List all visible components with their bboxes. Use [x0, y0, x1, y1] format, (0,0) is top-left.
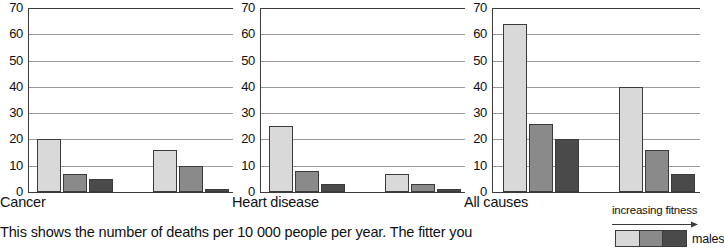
legend-swatches	[615, 230, 687, 247]
y-tick-label: 70	[241, 3, 255, 13]
plot-area-1	[260, 8, 465, 193]
y-tick-label: 40	[241, 82, 255, 92]
y-tick-label: 60	[241, 29, 255, 39]
y-tick-label: 70	[9, 3, 23, 13]
bar	[295, 171, 319, 192]
y-tick-label: 20	[241, 134, 255, 144]
bar	[645, 150, 669, 192]
y-tick-label: 30	[473, 108, 487, 118]
legend-swatch	[616, 231, 639, 246]
y-tick-label: 40	[9, 82, 23, 92]
y-tick-label: 30	[241, 108, 255, 118]
chart-panel-all-causes: 010203040506070 All causes	[464, 0, 700, 214]
y-tick-label: 50	[241, 56, 255, 66]
legend-label-males: males	[692, 232, 724, 246]
figure-caption: This shows the number of deaths per 10 0…	[0, 222, 580, 242]
chart-title-2: All causes	[464, 194, 528, 210]
y-axis-labels-2: 010203040506070	[464, 0, 490, 192]
bar	[411, 184, 435, 192]
legend: increasing fitness males	[608, 204, 716, 248]
plot-area-0	[28, 8, 233, 193]
bar	[529, 124, 553, 192]
legend-swatch	[662, 231, 686, 246]
bar	[37, 139, 61, 192]
bar	[205, 189, 229, 192]
y-axis-labels-1: 010203040506070	[232, 0, 258, 192]
chart-panel-heart-disease: 010203040506070 Heart disease	[232, 0, 468, 214]
y-tick-label: 10	[9, 161, 23, 171]
plot-area-2	[492, 8, 700, 193]
bar	[555, 139, 579, 192]
y-tick-label: 60	[9, 29, 23, 39]
chart-panel-cancer: 010203040506070 Cancer	[0, 0, 236, 214]
bar-group-1	[261, 8, 465, 192]
chart-title-1: Heart disease	[232, 194, 319, 210]
bar	[153, 150, 177, 192]
y-tick-label: 10	[241, 161, 255, 171]
right-arrow-icon	[612, 221, 698, 228]
y-tick-label: 50	[9, 56, 23, 66]
y-tick-label: 70	[473, 3, 487, 13]
bar	[619, 87, 643, 192]
y-axis-labels-0: 010203040506070	[0, 0, 26, 192]
bar	[63, 174, 87, 192]
bar-group-0	[29, 8, 233, 192]
y-tick-label: 60	[473, 29, 487, 39]
y-tick-label: 20	[9, 134, 23, 144]
y-tick-label: 20	[473, 134, 487, 144]
bar-group-2	[493, 8, 700, 192]
legend-title: increasing fitness	[612, 204, 697, 216]
bar	[89, 179, 113, 192]
bar	[269, 126, 293, 192]
bar	[321, 184, 345, 192]
y-tick-label: 40	[473, 82, 487, 92]
legend-swatch	[639, 231, 663, 246]
chart-title-0: Cancer	[0, 194, 46, 210]
bar	[385, 174, 409, 192]
bar	[437, 189, 461, 192]
y-tick-label: 50	[473, 56, 487, 66]
y-tick-label: 10	[473, 161, 487, 171]
bar	[671, 174, 695, 192]
y-tick-label: 30	[9, 108, 23, 118]
bar	[179, 166, 203, 192]
bar	[503, 24, 527, 192]
